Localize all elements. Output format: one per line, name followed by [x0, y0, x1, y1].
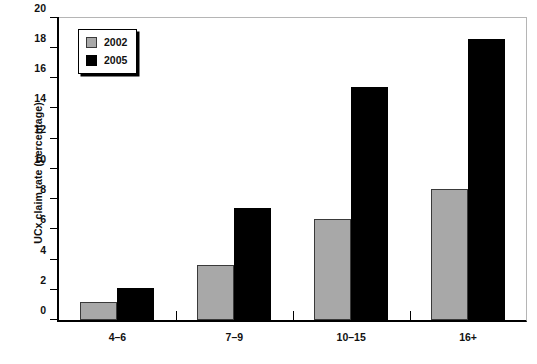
y-axis-tick-label: 8 — [40, 184, 46, 195]
y-axis-tick-label: 20 — [34, 2, 46, 13]
x-axis-category-label: 16+ — [459, 332, 477, 343]
legend-item-2002: 2002 — [86, 35, 127, 50]
y-axis-tick-label: 6 — [40, 214, 46, 225]
y-axis-tick — [50, 17, 59, 18]
y-axis-tick — [50, 259, 59, 260]
legend-item-2005: 2005 — [86, 53, 127, 68]
y-axis-tick-label: 16 — [34, 63, 46, 74]
y-axis-tick-label: 12 — [34, 123, 46, 134]
bar-chart: UCx claim rate (percentage) 024681012141… — [0, 0, 537, 364]
y-axis-tick — [50, 228, 59, 229]
y-axis-tick — [50, 319, 59, 320]
legend-label: 2002 — [104, 37, 127, 48]
bar-2002-10–15 — [314, 219, 351, 320]
bar-2005-7–9 — [234, 208, 271, 320]
legend-swatch-2002-icon — [86, 37, 97, 48]
bar-2002-16+ — [431, 189, 468, 320]
y-axis-tick-label: 4 — [40, 244, 46, 255]
y-axis-tick — [50, 107, 59, 108]
bar-2002-7–9 — [197, 265, 234, 320]
x-axis-category-label: 4–6 — [109, 332, 127, 343]
x-axis-category-label: 7–9 — [226, 332, 244, 343]
y-axis-tick-label: 10 — [34, 154, 46, 165]
bar-2005-10–15 — [351, 87, 388, 320]
y-axis-tick-label: 14 — [34, 93, 46, 104]
bar-2002-4–6 — [80, 302, 117, 320]
x-axis-category-label: 10–15 — [337, 332, 366, 343]
x-axis-tick — [410, 311, 411, 320]
y-axis-tick — [50, 198, 59, 199]
x-axis-tick — [176, 311, 177, 320]
chart-legend: 20022005 — [78, 29, 137, 74]
y-axis-tick-label: 18 — [34, 33, 46, 44]
y-axis-tick — [50, 77, 59, 78]
bar-2005-16+ — [468, 39, 505, 320]
y-axis-tick — [50, 138, 59, 139]
y-axis-tick-label: 0 — [40, 305, 46, 316]
y-axis-tick — [50, 168, 59, 169]
legend-swatch-2005-icon — [86, 55, 97, 66]
y-axis-tick — [50, 289, 59, 290]
y-axis-tick-label: 2 — [40, 275, 46, 286]
x-axis-tick — [293, 311, 294, 320]
y-axis-tick — [50, 47, 59, 48]
bar-2005-4–6 — [117, 288, 154, 320]
legend-label: 2005 — [104, 55, 127, 66]
